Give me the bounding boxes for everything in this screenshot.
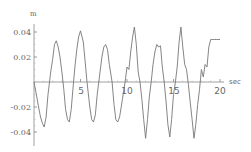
y-tick-label-0.02: 0.02 xyxy=(13,53,31,62)
x-tick-label-5: 5 xyxy=(78,86,84,96)
x-ticks xyxy=(43,79,220,82)
y-tick-label-0.04: 0.04 xyxy=(13,28,31,37)
y-tick-label-neg-0.02: -0.02 xyxy=(10,103,31,112)
displacement-series-line xyxy=(34,27,220,138)
x-tick-label-20: 20 xyxy=(214,86,226,96)
y-tick-label-neg-0.04: -0.04 xyxy=(10,128,31,137)
x-axis-unit-label: sec xyxy=(229,78,241,86)
displacement-time-chart: m sec 0.04 0.02 -0.02 -0.04 5 10 15 20 xyxy=(0,0,251,152)
y-axis-unit-label: m xyxy=(30,10,37,18)
